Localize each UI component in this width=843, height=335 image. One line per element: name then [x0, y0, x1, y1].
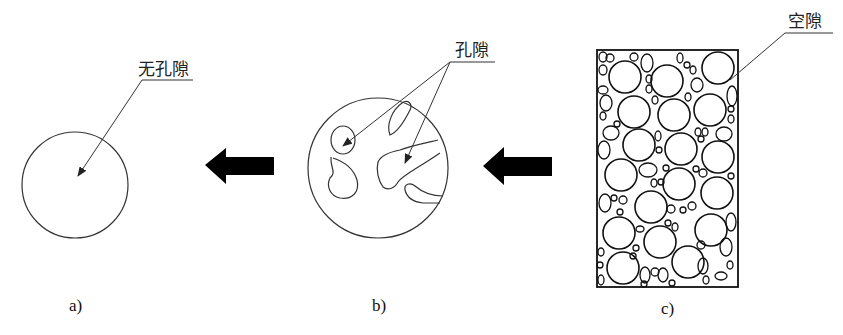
diagram-canvas: [0, 0, 843, 335]
panel-a-particle: [22, 80, 193, 238]
label-no-pores: 无孔隙: [138, 61, 189, 78]
panel-b-particle: [308, 62, 495, 238]
arrow-left-icon: [483, 147, 552, 185]
caption-b: b): [372, 297, 386, 314]
caption-a: a): [69, 297, 82, 314]
caption-c: c): [661, 300, 674, 317]
arrow-left-icon: [205, 148, 274, 184]
diagram-stage: 无孔隙 孔隙 空隙 a) b) c): [0, 0, 843, 335]
label-voids: 空隙: [788, 13, 822, 30]
label-pores: 孔隙: [455, 42, 489, 59]
panel-c-aggregate: [597, 33, 833, 287]
